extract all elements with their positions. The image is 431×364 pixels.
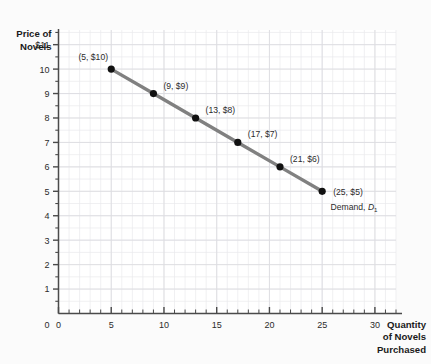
x-tick-label: 25 (317, 320, 327, 330)
x-tick-label: 20 (264, 320, 274, 330)
data-point-label: (21, $6) (290, 154, 320, 164)
data-point (276, 163, 283, 170)
x-axis-title-line: Quantity (387, 319, 427, 330)
x-axis-title-line: Purchased (377, 344, 426, 355)
origin-label: 0 (44, 320, 49, 330)
x-axis-title-line: of Novels (383, 331, 426, 342)
data-point (192, 114, 199, 121)
y-tick-label: 3 (44, 236, 49, 246)
data-point-label: (17, $7) (248, 129, 278, 139)
y-tick-label: 2 (44, 260, 49, 270)
x-tick-label: 30 (370, 320, 380, 330)
demand-curve-annotation: Demand, D1 (331, 202, 378, 213)
demand-label: Demand, D1 (331, 202, 378, 213)
y-tick-label: 6 (44, 162, 49, 172)
y-axis-title-line: Novels (20, 41, 51, 52)
y-tick-label: 7 (44, 138, 49, 148)
y-tick-label: 5 (44, 187, 49, 197)
y-tick-label: 8 (44, 113, 49, 123)
x-tick-label: 15 (212, 320, 222, 330)
data-point (319, 188, 326, 195)
data-point-label: (25, $5) (333, 187, 363, 197)
y-tick-label: 1 (44, 284, 49, 294)
demand-curve-figure: 051015202530 12345678910$110 (5, $10)(9,… (0, 0, 431, 364)
x-tick-label: 10 (159, 320, 169, 330)
x-tick-label: 0 (56, 320, 61, 330)
y-tick-label: 9 (44, 89, 49, 99)
x-tick-label: 5 (109, 320, 114, 330)
data-point (108, 66, 115, 73)
data-point-label: (5, $10) (78, 52, 108, 62)
y-tick-label: 4 (44, 211, 49, 221)
y-tick-label: 10 (39, 65, 49, 75)
y-axis-title-line: Price of (16, 28, 52, 39)
data-point (150, 90, 157, 97)
data-point (234, 139, 241, 146)
y-axis-title: Price ofNovels (16, 28, 52, 52)
demand-curve-chart: 051015202530 12345678910$110 (5, $10)(9,… (0, 0, 431, 364)
data-point-label: (13, $8) (206, 105, 236, 115)
data-point-label: (9, $9) (163, 81, 188, 91)
